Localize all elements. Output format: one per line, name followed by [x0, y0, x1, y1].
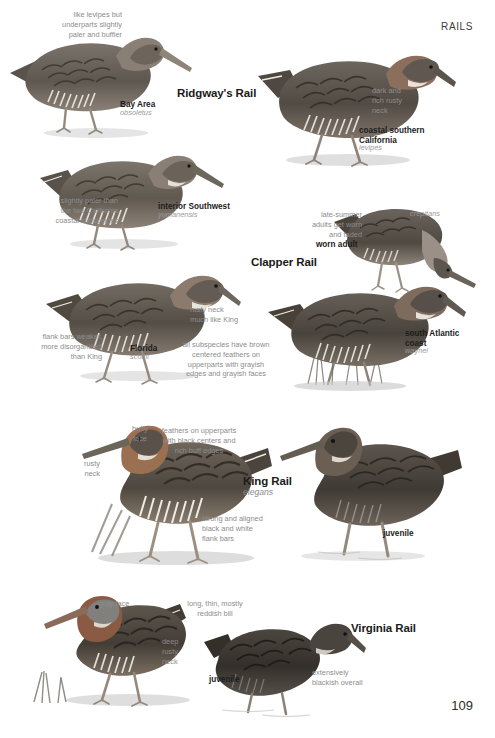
callout-slightly-paler: slightly paler than the two California c…: [8, 196, 118, 225]
callout-all-subspecies: all subspecies have brown centered feath…: [172, 340, 280, 379]
species-title-clapper-rail: Clapper Rail: [251, 256, 317, 269]
page-number: 109: [451, 698, 473, 713]
callout-flank-bars-weaker: flank bars weaker, more disorganized tha…: [6, 332, 102, 361]
callout-gray-face: gray face: [99, 599, 159, 609]
form-sci-interior-southwest: yumanensis: [158, 211, 197, 220]
age-label-king-juvenile: juvenile: [383, 529, 414, 538]
callout-rusty-neck-king: rusty neck much like King: [190, 305, 272, 325]
form-sci-bay-area: obsoletus: [120, 109, 152, 118]
bird-illustration-virginia-rail-juvenile: [202, 608, 367, 718]
callout-long-thin-bill: long, thin, mostly reddish bill: [173, 599, 257, 619]
callout-extensively-blackish: extensively blackish overall: [312, 668, 404, 688]
form-sci-south-atlantic: waynei: [405, 347, 428, 356]
callout-dark-rich-rusty: dark and rich rusty neck: [372, 86, 452, 115]
callout-feathers-upperparts: feathers on upperparts with black center…: [155, 426, 243, 455]
species-title-ridgways-rail: Ridgway's Rail: [177, 87, 256, 100]
callout-deep-rusty-neck: deep rusty neck: [162, 637, 202, 666]
age-label-virginia-juvenile: juvenile: [209, 675, 240, 684]
callout-like-levipes: like levipes but underparts slightly pal…: [8, 10, 122, 39]
form-sci-florida: scottii: [130, 353, 149, 362]
form-sci-coastal-socal: levipes: [359, 144, 382, 153]
species-sci-king-rail: elegans: [243, 488, 273, 498]
bird-illustration-king-rail-juvenile: [258, 416, 468, 566]
form-sci-crepitans: crepitans: [410, 210, 440, 219]
callout-late-summer: late-summer adults get worn and faded: [286, 210, 362, 239]
callout-rusty-neck: rusty neck: [62, 459, 100, 479]
callout-strong-aligned: strong and aligned black and white flank…: [202, 514, 294, 543]
age-label-worn-adult: worn adult: [316, 240, 357, 249]
field-guide-page: RAILS 109: [0, 0, 495, 738]
running-head: RAILS: [441, 21, 473, 32]
species-title-virginia-rail: Virginia Rail: [351, 622, 416, 635]
